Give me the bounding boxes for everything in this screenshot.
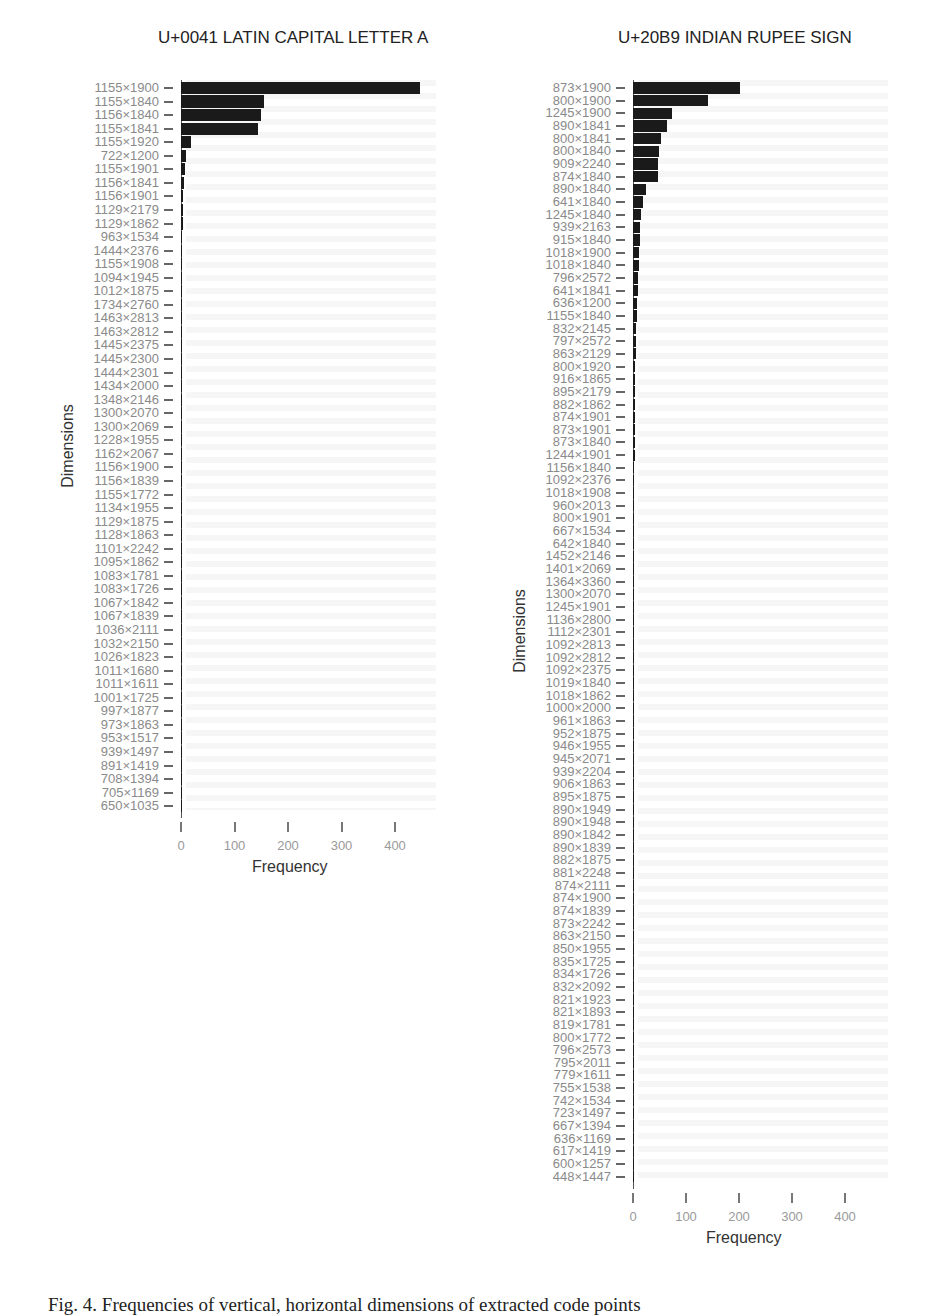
category-tick [616,897,625,899]
bar [633,1133,634,1144]
category-tick [616,1049,625,1051]
bar [633,374,635,385]
bar [633,171,658,182]
bar [633,614,634,625]
x-tick-label: 400 [834,1209,856,1224]
bar [633,146,659,157]
category-tick [616,707,625,709]
bar [181,502,182,514]
category-tick [616,328,625,330]
chart-title: U+0041 LATIN CAPITAL LETTER A [158,28,428,48]
bar [181,204,183,216]
category-tick [616,847,625,849]
x-tick [844,1193,846,1203]
bar [633,184,646,195]
bar [181,597,182,609]
category-tick [616,783,625,785]
category-label: 1155×1901 [95,162,159,175]
category-label: 1001×1725 [94,691,159,704]
bar [633,1095,634,1106]
category-tick [164,724,173,726]
category-label: 1463×2812 [94,325,159,338]
category-tick [616,872,625,874]
category-tick [616,366,625,368]
category-label: 909×2240 [553,157,611,170]
category-tick [164,128,173,130]
category-tick [616,720,625,722]
category-label: 1129×2179 [95,203,159,216]
bar [181,624,182,636]
category-tick [164,629,173,631]
category-tick [616,834,625,836]
category-label: 1445×2300 [94,352,159,365]
bar [181,150,186,162]
x-tick [632,1193,634,1203]
category-tick [616,948,625,950]
category-tick [616,619,625,621]
category-tick [164,561,173,563]
bar [181,190,183,202]
category-tick [616,277,625,279]
bar [181,516,182,528]
bar [633,639,634,650]
bar [633,196,643,207]
category-tick [616,340,625,342]
category-label: 1036×2111 [95,623,159,636]
bar [633,728,634,739]
category-label: 1012×1875 [94,284,159,297]
background-texture [186,80,436,810]
category-label: 891×1419 [101,759,159,772]
category-label: 1155×1841 [95,122,159,135]
x-tick-label: 0 [629,1209,636,1224]
category-tick [164,588,173,590]
category-label: 705×1169 [102,786,159,799]
category-tick [616,631,625,633]
category-tick [164,792,173,794]
bar [633,918,634,929]
category-tick [164,656,173,658]
bar [181,461,182,473]
bar [181,773,182,785]
bar [633,842,634,853]
category-label: 1128×1863 [95,528,159,541]
x-tick [341,822,343,832]
bar [633,272,638,283]
category-label: 863×2129 [553,347,611,360]
y-axis-label: Dimensions [59,396,77,496]
category-label: 1155×1840 [95,95,159,108]
x-tick [738,1193,740,1203]
category-label: 1026×1823 [94,650,159,663]
bar [181,556,182,568]
bar [181,421,182,433]
category-tick [616,1112,625,1114]
bar [181,787,182,799]
category-tick [616,669,625,671]
category-tick [616,87,625,89]
bar [633,133,661,144]
category-label: 895×1875 [553,790,611,803]
bar [181,637,182,649]
bar [181,705,182,717]
bar [633,475,634,486]
x-tick-label: 100 [675,1209,697,1224]
bar [633,981,634,992]
x-tick-label: 300 [331,838,353,853]
bar [633,969,634,980]
bar [181,583,182,595]
category-tick [164,182,173,184]
category-tick [616,100,625,102]
bar [181,800,182,812]
bar [181,448,182,460]
bar [633,95,708,106]
bar [633,804,634,815]
bar [181,665,182,677]
category-tick [616,821,625,823]
bar [181,570,182,582]
bar [633,234,640,245]
bar [633,1057,634,1068]
category-label: 1300×2070 [94,406,159,419]
x-axis-label: Frequency [252,858,328,876]
bar [633,1083,634,1094]
category-label: 1083×1781 [94,569,159,582]
bar [181,678,182,690]
